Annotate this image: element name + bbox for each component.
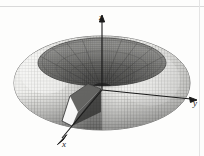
axis-label-z: z	[99, 13, 103, 22]
axis-label-x: x	[62, 140, 66, 149]
math-figure-horn-torus: z y x	[0, 0, 204, 156]
torus-surface-plot	[0, 0, 204, 156]
torus-bottom-shading	[10, 92, 196, 136]
axis-label-y: y	[193, 99, 197, 108]
